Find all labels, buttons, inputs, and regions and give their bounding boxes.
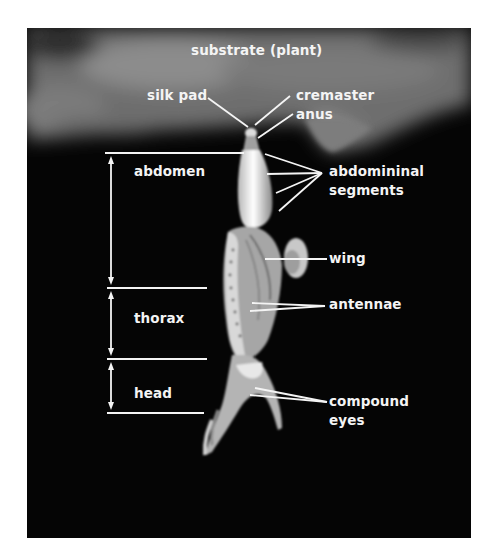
substrate-background [15, 28, 471, 538]
label-anus: anus [296, 106, 333, 123]
label-compound-eyes-line1: compound [329, 393, 409, 410]
label-antennae: antennae [329, 296, 402, 313]
label-abdomen: abdomen [134, 163, 205, 180]
label-silk-pad: silk pad [147, 87, 207, 104]
label-wing: wing [329, 250, 366, 267]
label-abdominal-segments-line2: segments [329, 182, 404, 199]
label-compound-eyes-line2: eyes [329, 412, 365, 429]
label-cremaster: cremaster [296, 87, 374, 104]
pupa-photo-illustration [0, 0, 496, 559]
label-head: head [134, 385, 172, 402]
label-substrate: substrate (plant) [191, 42, 322, 59]
label-abdominal-segments-line1: abdomininal [329, 163, 424, 180]
label-thorax: thorax [134, 310, 184, 327]
